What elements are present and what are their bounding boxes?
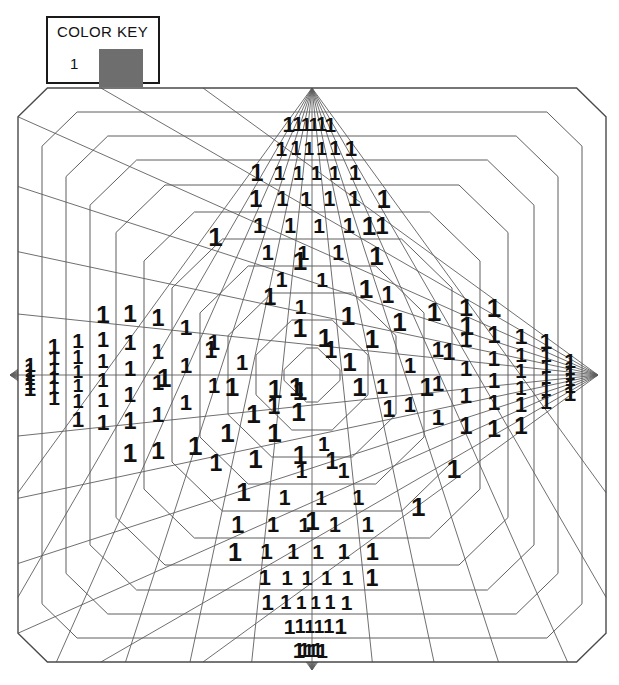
cell-number-label: 1 — [48, 386, 60, 409]
cell-number-label: 1 — [459, 413, 472, 439]
color-key-title: COLOR KEY — [57, 23, 148, 40]
cell-number-label: 1 — [293, 162, 304, 184]
cell-number-label: 1 — [488, 346, 500, 371]
cell-number-label: 1 — [208, 373, 220, 398]
cell-number-label: 1 — [151, 305, 164, 331]
cell-number-label: 1 — [345, 136, 357, 161]
cell-number-label: 1 — [404, 353, 416, 378]
cell-number-label: 1 — [180, 315, 193, 340]
cell-number-label: 1 — [383, 396, 396, 422]
cell-number-label: 1 — [460, 327, 473, 352]
cell-number-label: 1 — [487, 322, 500, 348]
cell-number-label: 1 — [342, 347, 356, 377]
cell-number-label: 1 — [432, 371, 444, 396]
cell-number-label: 1 — [231, 512, 244, 538]
color-key-box: COLOR KEY 1 — [46, 16, 160, 84]
cell-number-label: 1 — [366, 539, 379, 565]
cell-number-label: 1 — [349, 160, 361, 185]
cell-number-label: 1 — [348, 186, 361, 211]
cell-number-label: 1 — [293, 246, 307, 276]
color-key-entry: 1 — [48, 47, 158, 83]
cell-number-label: 1 — [304, 138, 314, 159]
cell-number-label: 1 — [296, 592, 307, 613]
cell-number-label: 1 — [287, 540, 299, 564]
cell-number-label: 1 — [411, 492, 425, 522]
cell-number-label: 1 — [276, 186, 288, 211]
cell-number-label: 1 — [310, 592, 320, 613]
cell-number-label: 1 — [316, 138, 327, 159]
cell-number-label: 1 — [123, 438, 137, 468]
cell-number-label: 1 — [296, 459, 308, 482]
cell-number-label: 1 — [291, 397, 305, 427]
gray-swatch — [99, 49, 143, 87]
cell-number-label: 1 — [259, 565, 271, 590]
color-by-number-figure: 1111111111111111111111111111111111111111… — [0, 0, 619, 685]
cell-number-label: 1 — [376, 213, 389, 239]
cell-number-label: 1 — [447, 454, 461, 484]
cell-number-label: 1 — [262, 240, 274, 265]
cell-number-label: 1 — [316, 639, 328, 662]
cell-number-label: 1 — [152, 370, 164, 395]
cell-number-label: 1 — [459, 294, 473, 321]
cell-number-label: 1 — [180, 390, 192, 415]
cell-number-label: 1 — [329, 137, 340, 159]
cell-number-label: 1 — [352, 485, 364, 510]
cell-number-label: 1 — [151, 437, 165, 464]
cell-number-label: 1 — [341, 301, 355, 331]
cell-number-label: 1 — [293, 313, 307, 343]
cell-number-label: 1 — [228, 538, 242, 566]
cell-number-label: 1 — [276, 268, 288, 292]
cell-number-label: 1 — [253, 213, 266, 238]
cell-number-label: 1 — [404, 392, 416, 417]
cell-number-label: 1 — [24, 376, 36, 401]
cell-number-label: 1 — [208, 222, 222, 252]
cell-number-label: 1 — [249, 186, 262, 212]
cell-number-label: 1 — [210, 450, 223, 476]
cell-number-label: 1 — [326, 448, 339, 474]
cell-number-label: 1 — [487, 415, 501, 442]
cell-number-label: 1 — [366, 565, 379, 591]
cell-number-label: 1 — [432, 405, 445, 430]
cell-number-label: 1 — [123, 300, 137, 327]
cell-number-label: 1 — [267, 512, 279, 537]
cell-number-label: 1 — [487, 293, 501, 323]
cell-number-label: 1 — [369, 241, 383, 271]
cell-number-label: 1 — [564, 349, 576, 372]
cell-number-label: 1 — [460, 356, 472, 381]
cell-number-label: 1 — [264, 284, 277, 310]
figure-canvas: 1111111111111111111111111111111111111111… — [0, 0, 619, 685]
cell-number-label: 1 — [315, 486, 327, 509]
cell-number-label: 1 — [324, 187, 336, 211]
cell-number-label: 1 — [124, 382, 136, 407]
cell-number-label: 1 — [236, 477, 250, 507]
cell-number-label: 1 — [236, 350, 248, 375]
cell-number-label: 1 — [325, 337, 338, 363]
cell-number-label: 1 — [299, 513, 311, 536]
cell-number-label: 1 — [280, 591, 291, 613]
cell-number-label: 1 — [362, 211, 376, 241]
cell-number-label: 1 — [124, 330, 137, 355]
color-key-number: 1 — [70, 55, 78, 72]
cell-number-label: 1 — [311, 162, 322, 184]
cell-number-label: 1 — [325, 591, 336, 613]
cell-number-label: 1 — [313, 214, 325, 237]
cell-number-label: 1 — [267, 418, 281, 448]
cell-number-label: 1 — [323, 615, 334, 637]
cell-number-label: 1 — [321, 567, 332, 589]
cell-number-label: 1 — [225, 372, 239, 402]
cell-number-label: 1 — [246, 399, 260, 429]
cell-number-label: 1 — [291, 137, 302, 159]
cell-number-label: 1 — [377, 185, 391, 213]
cell-number-label: 1 — [152, 402, 165, 427]
cell-number-label: 1 — [338, 539, 350, 564]
cell-number-label: 1 — [460, 383, 472, 408]
cell-number-label: 1 — [260, 539, 273, 564]
cell-number-label: 1 — [152, 339, 164, 364]
cell-number-label: 1 — [268, 393, 281, 419]
cell-number-label: 1 — [334, 614, 346, 639]
cell-number-label: 1 — [274, 161, 286, 184]
cell-number-label: 1 — [515, 323, 528, 349]
cell-number-label: 1 — [262, 590, 274, 615]
cell-number-label: 1 — [251, 160, 264, 186]
cell-number-label: 1 — [302, 567, 313, 589]
